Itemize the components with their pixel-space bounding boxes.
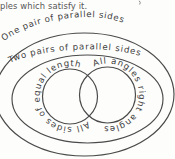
outer-ellipse-label-text: One pair of parallel sides [0,9,126,43]
left-circle-label-text: All sides of equal length [31,58,91,135]
truncated-sentence: ples which satisfy it. [0,1,87,11]
page: ples which satisfy it. One pair of paral… [0,0,175,159]
right-circle [80,67,136,123]
left-circle-label: All sides of equal length [31,58,91,135]
outer-ellipse-label: One pair of parallel sides [0,9,126,43]
cutoff-text-fragment [140,1,141,4]
venn-diagram: ples which satisfy it. One pair of paral… [0,0,175,159]
